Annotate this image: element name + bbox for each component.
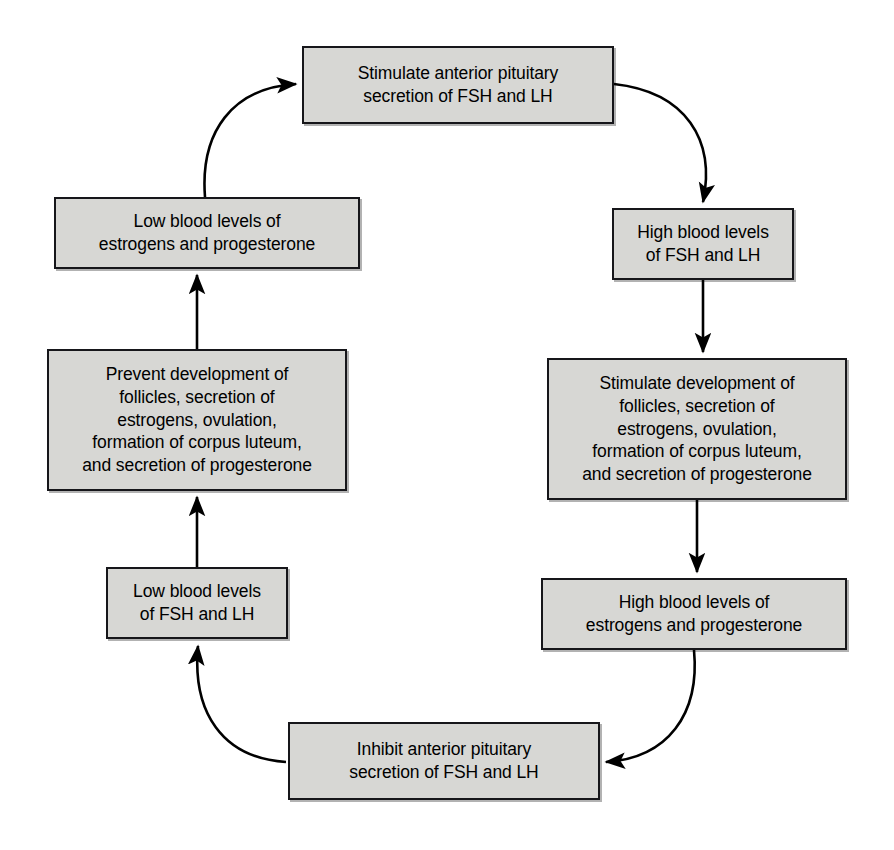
- node-label: Prevent development of follicles, secret…: [76, 363, 318, 477]
- node-stimulate-anterior-pituitary[interactable]: Stimulate anterior pituitary secretion o…: [302, 46, 614, 124]
- edge-inhibit-to-low-fsh: [197, 646, 286, 762]
- node-label: Stimulate anterior pituitary secretion o…: [352, 62, 564, 108]
- node-low-fsh-lh[interactable]: Low blood levels of FSH and LH: [106, 567, 288, 639]
- node-label: High blood levels of estrogens and proge…: [580, 591, 808, 637]
- node-high-estrogens-progesterone[interactable]: High blood levels of estrogens and proge…: [541, 578, 847, 650]
- edge-high-estro-to-inhibit: [606, 650, 695, 762]
- node-low-estrogens-progesterone[interactable]: Low blood levels of estrogens and proges…: [54, 197, 360, 269]
- node-stimulate-development[interactable]: Stimulate development of follicles, secr…: [547, 358, 847, 500]
- edge-low-estro-to-top: [204, 84, 296, 197]
- node-label: Inhibit anterior pituitary secretion of …: [343, 738, 544, 784]
- node-label: Low blood levels of estrogens and proges…: [93, 210, 321, 256]
- node-label: Stimulate development of follicles, secr…: [576, 372, 818, 486]
- flowchart-diagram: Stimulate anterior pituitary secretion o…: [0, 0, 894, 850]
- node-prevent-development[interactable]: Prevent development of follicles, secret…: [47, 349, 347, 491]
- node-label: Low blood levels of FSH and LH: [127, 580, 267, 626]
- node-inhibit-anterior-pituitary[interactable]: Inhibit anterior pituitary secretion of …: [288, 722, 600, 800]
- node-high-fsh-lh[interactable]: High blood levels of FSH and LH: [612, 208, 794, 280]
- node-label: High blood levels of FSH and LH: [631, 221, 775, 267]
- edge-top-to-high-fsh: [614, 84, 706, 202]
